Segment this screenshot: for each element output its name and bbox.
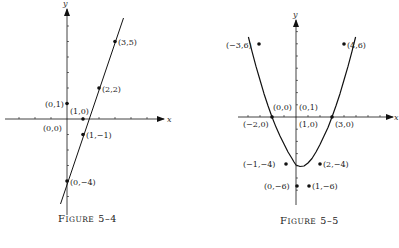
point-label-4-6: (4,6) — [347, 41, 366, 50]
figure-caption-5-4: FIGURE5–4 — [58, 213, 117, 224]
x-axis-label: x — [394, 113, 399, 122]
point-label-1-neg1: (1,−1) — [86, 131, 112, 140]
point-label-neg2-0: (−2,0) — [243, 120, 269, 129]
point-label-neg1-neg4: (−1,−4) — [243, 160, 275, 169]
x-axis-label: x — [167, 115, 172, 124]
point-label-0-1: (0,1) — [299, 103, 318, 112]
figure-5-4: x y (3,5) (2,2) (0,1) (1,0) (0,0) (1,−1)… — [5, 0, 172, 224]
figure-5-5: x y (−3,6) (4,6) (0,0) (0,1) (−2,0) (1,0… — [226, 10, 399, 226]
point-label-0-neg6: (0,−6) — [264, 182, 290, 191]
y-axis-label: y — [62, 0, 68, 8]
point-label-1-0: (1,0) — [70, 107, 89, 116]
point-label-1-neg6: (1,−6) — [312, 182, 338, 191]
y-axis-label: y — [292, 10, 298, 19]
point-label-3-0: (3,0) — [335, 120, 354, 129]
figure-caption-5-5: FIGURE5–5 — [280, 215, 339, 226]
point-label-0-1: (0,1) — [45, 100, 64, 109]
point-label-0-0: (0,0) — [43, 124, 62, 133]
point-label-2-neg4: (2,−4) — [323, 160, 349, 169]
point-label-1-0: (1,0) — [299, 120, 318, 129]
point-label-0-neg4: (0,−4) — [70, 178, 96, 187]
point-label-neg3-6: (−3,6) — [226, 41, 252, 50]
figures-canvas: x y (3,5) (2,2) (0,1) (1,0) (0,0) (1,−1)… — [0, 0, 399, 248]
parabola-curve — [248, 37, 355, 167]
point-label-2-2: (2,2) — [102, 85, 121, 94]
point-label-3-5: (3,5) — [118, 38, 137, 47]
point-label-0-0: (0,0) — [273, 103, 292, 112]
